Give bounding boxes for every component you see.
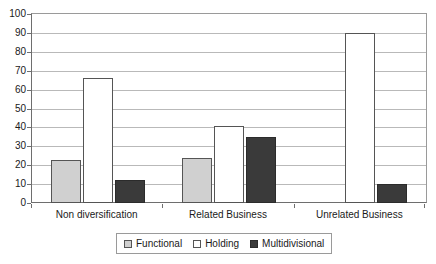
y-axis-tick-label: 90 bbox=[15, 28, 26, 38]
y-axis-tick-label: 70 bbox=[15, 66, 26, 76]
x-axis-category-label: Related Business bbox=[162, 209, 293, 221]
x-axis: Non diversificationRelated BusinessUnrel… bbox=[31, 204, 427, 226]
x-axis-category-label: Unrelated Business bbox=[294, 209, 425, 221]
bar-group bbox=[295, 14, 426, 203]
y-axis-tick-label: 10 bbox=[15, 179, 26, 189]
chart-legend: FunctionalHoldingMultidivisional bbox=[116, 233, 332, 254]
y-axis-tick-label: 60 bbox=[15, 85, 26, 95]
bar-group bbox=[32, 14, 163, 203]
bar-multidivisional bbox=[246, 137, 276, 203]
x-axis-tick-mark bbox=[162, 204, 163, 208]
bar-functional bbox=[51, 160, 81, 203]
bars-layer bbox=[32, 14, 426, 203]
cropped-title-remnant bbox=[0, 0, 436, 5]
x-axis-tick-mark bbox=[424, 204, 425, 208]
legend-label: Multidivisional bbox=[262, 239, 324, 249]
legend-item: Functional bbox=[124, 239, 182, 249]
y-axis-tick-label: 80 bbox=[15, 47, 26, 57]
x-axis-tick-mark bbox=[294, 204, 295, 208]
bar-multidivisional bbox=[377, 184, 407, 203]
bar-group bbox=[163, 14, 294, 203]
y-axis-tick-label: 30 bbox=[15, 141, 26, 151]
y-axis-tick-label: 40 bbox=[15, 122, 26, 132]
bar-holding bbox=[214, 126, 244, 203]
x-axis-tick-mark bbox=[31, 204, 32, 208]
bar-functional bbox=[182, 158, 212, 203]
y-axis: 1009080706050403020100 bbox=[0, 0, 31, 206]
legend-item: Holding bbox=[193, 239, 239, 249]
y-axis-tick-label: 0 bbox=[20, 198, 26, 208]
bar-chart: 1009080706050403020100 Non diversificati… bbox=[0, 0, 436, 264]
y-axis-tick-label: 50 bbox=[15, 104, 26, 114]
y-axis-tick-label: 100 bbox=[9, 9, 26, 19]
bar-multidivisional bbox=[115, 180, 145, 203]
legend-swatch-functional-icon bbox=[124, 240, 132, 248]
x-axis-category-label: Non diversification bbox=[31, 209, 162, 221]
legend-swatch-holding-icon bbox=[193, 240, 201, 248]
y-axis-tick-label: 20 bbox=[15, 160, 26, 170]
legend-item: Multidivisional bbox=[250, 239, 324, 249]
bar-holding bbox=[83, 78, 113, 203]
legend-label: Functional bbox=[136, 239, 182, 249]
bar-holding bbox=[345, 33, 375, 203]
legend-label: Holding bbox=[205, 239, 239, 249]
legend-swatch-multidivisional-icon bbox=[250, 240, 258, 248]
